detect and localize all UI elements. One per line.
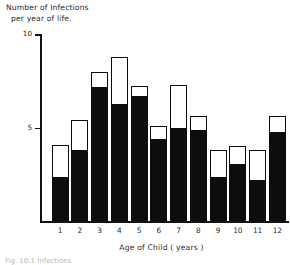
bar-fill-age-3 — [92, 87, 107, 221]
bar-fill-age-6 — [151, 139, 166, 220]
bar-fill-age-10 — [230, 164, 245, 221]
figure-caption: Fig. 10.1 Infections — [5, 257, 71, 265]
plot-area: 510 — [40, 34, 289, 223]
x-axis-title: Age of Child ( years ) — [0, 243, 289, 252]
x-axis-tick-labels: 123456789101112 — [40, 226, 289, 238]
bar-series-group — [40, 34, 289, 222]
y-axis-title: Number of Infections per year of life. — [6, 3, 89, 24]
bar-age-1 — [52, 145, 69, 222]
bar-age-11 — [249, 150, 266, 221]
bar-fill-age-1 — [53, 177, 68, 221]
bar-age-4 — [111, 57, 128, 222]
x-tick-label-12: 12 — [265, 226, 290, 236]
bar-age-2 — [71, 120, 88, 221]
bar-age-3 — [91, 72, 108, 222]
bar-fill-age-9 — [211, 177, 226, 221]
y-axis-title-line1: Number of Infections — [6, 3, 89, 12]
bar-fill-age-12 — [270, 132, 285, 221]
y-tick-label-10: 10 — [23, 29, 32, 38]
bar-fill-age-7 — [171, 128, 186, 221]
bar-fill-age-4 — [112, 104, 127, 221]
bar-age-6 — [150, 126, 167, 222]
bar-fill-age-11 — [250, 180, 265, 220]
bar-age-10 — [229, 146, 246, 221]
bar-age-12 — [269, 116, 286, 221]
bar-age-7 — [170, 85, 187, 222]
bar-fill-age-8 — [191, 130, 206, 221]
y-axis-title-line2: per year of life. — [6, 14, 89, 25]
bar-age-5 — [131, 86, 148, 221]
y-tick-label-5: 5 — [27, 123, 32, 132]
bar-fill-age-2 — [72, 150, 87, 220]
bar-age-8 — [190, 116, 207, 221]
bar-age-9 — [210, 150, 227, 221]
bar-fill-age-5 — [132, 96, 147, 220]
